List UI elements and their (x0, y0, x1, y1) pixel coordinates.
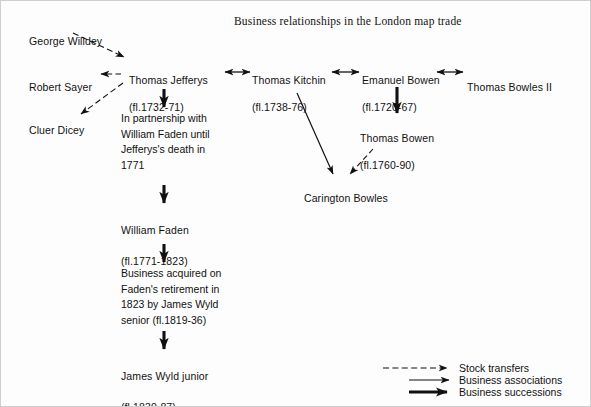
legend-label-business-successions: Business successions (459, 386, 562, 399)
node-thomas-bowen[interactable]: Thomas Bowen (fl.1760-90) (360, 118, 434, 186)
node-emanuel-bowen-dates: (fl.1720-67) (362, 101, 440, 115)
node-thomas-jefferys-name: Thomas Jefferys (129, 74, 208, 88)
node-thomas-bowles-ii-name: Thomas Bowles II (467, 81, 552, 95)
node-cluer-dicey-name: Cluer Dicey (29, 124, 84, 138)
node-thomas-bowen-name: Thomas Bowen (360, 132, 434, 146)
node-thomas-bowen-dates: (fl.1760-90) (360, 159, 434, 173)
figure-canvas: Business relationships in the London map… (0, 0, 591, 407)
node-james-wyld-junior-name: James Wyld junior (121, 369, 208, 385)
node-james-wyld-junior-dates: (fl.1830-87) (121, 400, 208, 407)
node-thomas-bowles-ii[interactable]: Thomas Bowles II (467, 67, 552, 108)
node-thomas-kitchin-name: Thomas Kitchin (252, 74, 326, 88)
node-george-willdey[interactable]: George Willdey (29, 21, 102, 62)
node-emanuel-bowen-name: Emanuel Bowen (362, 74, 440, 88)
node-thomas-kitchin[interactable]: Thomas Kitchin (fl.1738-76) (252, 60, 326, 128)
figure-title: Business relationships in the London map… (234, 15, 462, 27)
node-carington-bowles[interactable]: Carington Bowles (304, 178, 388, 219)
node-carington-bowles-name: Carington Bowles (304, 192, 388, 206)
node-cluer-dicey[interactable]: Cluer Dicey (29, 110, 84, 151)
node-robert-sayer-name: Robert Sayer (29, 81, 92, 95)
node-robert-sayer[interactable]: Robert Sayer (29, 67, 92, 108)
node-william-faden-name: William Faden (121, 223, 189, 239)
node-james-wyld-junior[interactable]: James Wyld junior (fl.1830-87) (121, 353, 208, 407)
node-thomas-kitchin-dates: (fl.1738-76) (252, 101, 326, 115)
note-faden-partnership: In partnership with William Faden until … (121, 111, 251, 173)
node-george-willdey-name: George Willdey (29, 35, 102, 49)
note-wyld-acquisition: Business acquired on Faden's retirement … (121, 266, 261, 328)
